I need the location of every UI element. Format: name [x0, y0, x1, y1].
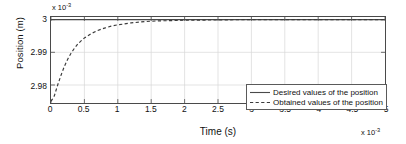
y-tick-label: 3	[42, 14, 47, 23]
chart-legend: Desired values of the positionObtained v…	[246, 84, 387, 110]
x-tick-label: 2.5	[212, 105, 224, 114]
x-tick-label: 0	[48, 105, 53, 114]
legend-item: Desired values of the position	[249, 87, 383, 97]
legend-item: Obtained values of the position	[249, 97, 383, 107]
legend-label: Obtained values of the position	[273, 98, 383, 107]
x-tick-label: 1.5	[145, 105, 157, 114]
y-multiplier-base: x 10	[52, 3, 66, 12]
x-axis-multiplier: x 10-3	[361, 129, 380, 137]
chart-figure: Position (m) x 10-3 2.982.993 00.511.522…	[0, 0, 406, 144]
x-tick-label: 0.5	[78, 105, 90, 114]
y-tick-label: 2.99	[30, 48, 47, 57]
x-multiplier-base: x 10	[361, 128, 375, 137]
y-axis-label: Position (m)	[15, 0, 25, 91]
legend-line-sample	[249, 88, 271, 97]
y-tick-label: 2.98	[30, 81, 47, 90]
y-axis-multiplier: x 10-3	[52, 4, 71, 12]
x-axis-label: Time (s)	[50, 126, 386, 137]
x-tick-label: 2	[182, 105, 187, 114]
x-tick-label: 1	[115, 105, 120, 114]
x-multiplier-exponent: -3	[375, 127, 380, 133]
y-multiplier-exponent: -3	[66, 2, 71, 8]
legend-line-sample	[249, 98, 271, 107]
legend-label: Desired values of the position	[273, 88, 378, 97]
